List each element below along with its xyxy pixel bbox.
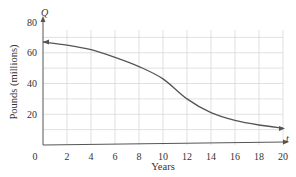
y-tick-label: 80 bbox=[27, 17, 37, 28]
x-tick-label: 20 bbox=[278, 151, 288, 162]
x-tick-label: 2 bbox=[65, 151, 70, 162]
x-tick-label: 16 bbox=[230, 151, 240, 162]
x-tick-label: 6 bbox=[113, 151, 118, 162]
x-tick-label: 14 bbox=[206, 151, 216, 162]
x-axis bbox=[43, 142, 285, 145]
x-variable-label: t bbox=[286, 133, 289, 144]
y-tick-label: 60 bbox=[27, 47, 37, 58]
curve-end-arrow-icon bbox=[279, 126, 285, 131]
x-tick-label: 8 bbox=[137, 151, 142, 162]
y-axis-label: Pounds (millions) bbox=[8, 44, 20, 119]
chart: 0246810121416182020406080 Years Pounds (… bbox=[0, 0, 296, 177]
axes bbox=[43, 20, 285, 145]
curve-start-arrow-icon bbox=[43, 39, 49, 44]
y-variable-label: Q bbox=[41, 7, 49, 18]
x-tick-label: 12 bbox=[182, 151, 192, 162]
x-tick-label: 18 bbox=[254, 151, 264, 162]
x-tick-label: 4 bbox=[89, 151, 94, 162]
x-axis-label: Years bbox=[151, 161, 174, 172]
tick-labels: 0246810121416182020406080 bbox=[27, 17, 288, 163]
y-tick-label: 40 bbox=[27, 78, 37, 89]
x-tick-label: 0 bbox=[33, 151, 38, 162]
y-tick-label: 20 bbox=[27, 109, 37, 120]
